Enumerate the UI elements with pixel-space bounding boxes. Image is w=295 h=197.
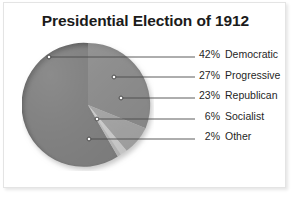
- legend-percent: 23%: [190, 89, 220, 101]
- legend-item-progressive: 27%Progressive: [190, 69, 286, 90]
- pie-chart: [22, 39, 154, 171]
- legend-percent: 42%: [190, 48, 220, 60]
- legend-label: Progressive: [225, 69, 280, 81]
- chart-card: Presidential Election of 1912: [3, 2, 286, 188]
- legend-percent: 6%: [190, 110, 220, 122]
- legend-item-socialist: 6%Socialist: [190, 110, 286, 131]
- legend-label: Other: [225, 130, 251, 142]
- chart-figure: Presidential Election of 1912: [0, 0, 295, 197]
- legend-label: Socialist: [225, 110, 264, 122]
- chart-title: Presidential Election of 1912: [4, 12, 287, 30]
- legend-label: Republican: [225, 89, 278, 101]
- legend-percent: 2%: [190, 130, 220, 142]
- chart-legend: 42%Democratic 27%Progressive 23%Republic…: [190, 48, 286, 151]
- legend-label: Democratic: [225, 48, 278, 60]
- legend-item-other: 2%Other: [190, 130, 286, 151]
- pie-svg: [22, 39, 154, 171]
- legend-item-democratic: 42%Democratic: [190, 48, 286, 69]
- legend-item-republican: 23%Republican: [190, 89, 286, 110]
- legend-percent: 27%: [190, 69, 220, 81]
